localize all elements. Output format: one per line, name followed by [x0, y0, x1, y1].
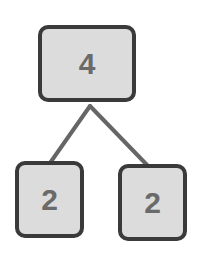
edge-root-right	[90, 106, 148, 166]
root-node: 4	[38, 25, 136, 102]
right-child-value: 2	[144, 186, 161, 220]
root-node-value: 4	[79, 47, 96, 81]
edge-root-left	[50, 106, 90, 163]
right-child-node: 2	[118, 164, 187, 241]
left-child-value: 2	[41, 183, 58, 217]
left-child-node: 2	[15, 161, 84, 238]
